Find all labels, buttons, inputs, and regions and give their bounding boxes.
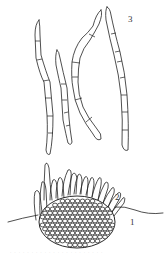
figure-caption: · · · · · · · · · · · · · · · · · · · · … [10, 250, 160, 256]
label-2: 2 [115, 192, 120, 202]
fungus-illustration: 1 2 3 [0, 0, 167, 259]
sporodochium [39, 196, 115, 248]
conidium-b [56, 50, 72, 144]
conidium-a [35, 20, 53, 155]
label-3: 3 [128, 14, 133, 24]
conidium-c [72, 10, 102, 140]
conidium-d [106, 7, 129, 150]
label-1: 1 [130, 217, 135, 227]
